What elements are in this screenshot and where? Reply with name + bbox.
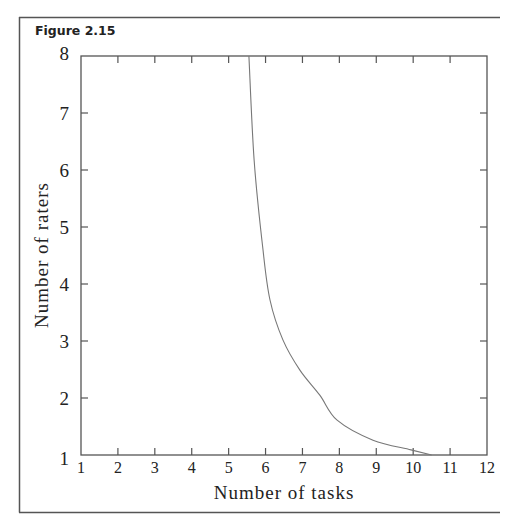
x-tick-label: 2 [114, 459, 122, 476]
x-tick-label: 8 [335, 459, 343, 476]
y-tick-label: 1 [60, 448, 70, 469]
y-tick-label: 7 [60, 103, 70, 124]
plot-area [81, 56, 487, 455]
y-tick-labels: 12345678 [60, 43, 70, 469]
x-axis-label: Number of tasks [214, 482, 355, 503]
y-tick-label: 6 [60, 160, 70, 181]
data-curve [249, 56, 432, 455]
x-tick-label: 11 [442, 459, 457, 476]
x-tick-label: 9 [372, 459, 380, 476]
x-tick-label: 1 [77, 459, 85, 476]
figure-frame [19, 17, 500, 513]
y-tick-label: 3 [60, 331, 70, 352]
y-tick-label: 5 [60, 217, 70, 238]
y-axis-label: Number of raters [31, 182, 52, 328]
x-tick-labels: 123456789101112 [77, 459, 495, 476]
x-tick-label: 10 [405, 459, 421, 476]
x-tick-label: 7 [298, 459, 306, 476]
x-tick-label: 5 [225, 459, 233, 476]
x-tick-label: 4 [188, 459, 196, 476]
y-tick-label: 8 [60, 43, 70, 64]
chart: Figure 2.15 123456789101112 12345678 Num… [0, 0, 515, 524]
x-tick-label: 6 [262, 459, 270, 476]
axis-ticks [81, 56, 487, 455]
y-tick-label: 2 [60, 388, 70, 409]
figure-title: Figure 2.15 [35, 23, 116, 38]
x-tick-label: 3 [151, 459, 159, 476]
y-tick-label: 4 [60, 274, 70, 295]
x-tick-label: 12 [479, 459, 495, 476]
